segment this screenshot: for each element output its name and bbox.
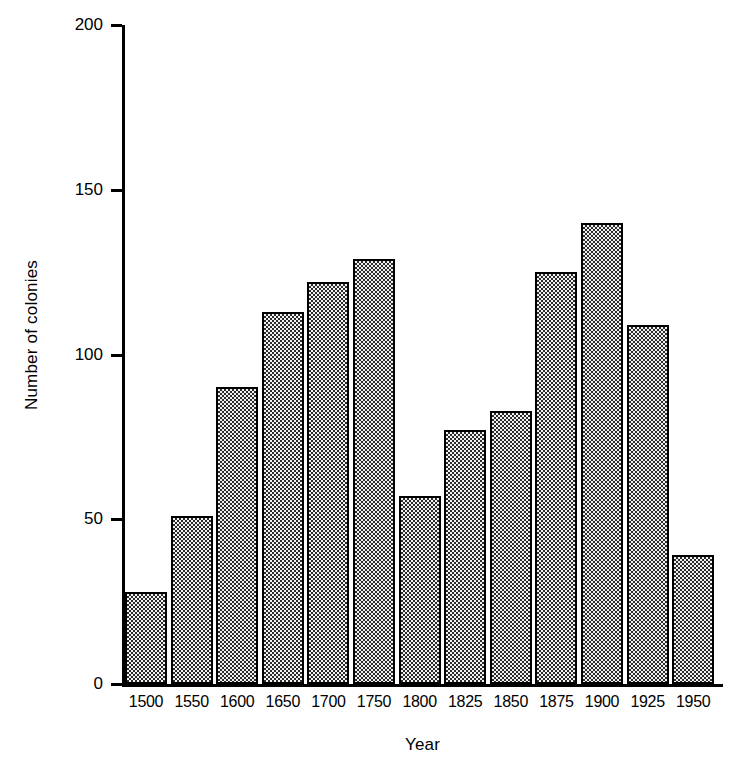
y-axis-title: Number of colonies <box>22 235 42 435</box>
bar <box>535 272 577 684</box>
y-axis-tick-label: 150 <box>35 181 103 198</box>
x-axis-title: Year <box>122 735 723 755</box>
bar <box>353 259 395 684</box>
y-axis-tick <box>111 518 122 521</box>
bar <box>490 411 532 684</box>
bar-chart-figure: Number of colonies 050100150200 15001550… <box>0 0 746 776</box>
x-axis-tick-label: 1950 <box>663 694 723 710</box>
bar <box>216 387 258 684</box>
y-axis-tick-label: 50 <box>35 510 103 527</box>
y-axis-tick <box>111 24 122 27</box>
y-axis-tick-label: 200 <box>35 16 103 33</box>
y-axis-tick-label: 100 <box>35 346 103 363</box>
y-axis-tick <box>111 354 122 357</box>
bar <box>262 312 304 684</box>
y-axis-tick <box>111 189 122 192</box>
bar <box>399 496 441 684</box>
y-axis-tick-label: 0 <box>35 675 103 692</box>
bar <box>627 325 669 684</box>
x-axis-line <box>122 684 723 687</box>
bar <box>171 516 213 684</box>
bar <box>125 592 167 684</box>
bar <box>581 223 623 684</box>
y-axis-line <box>122 25 125 686</box>
bar <box>307 282 349 684</box>
bar <box>672 555 714 684</box>
y-axis-tick <box>111 683 122 686</box>
bar <box>444 430 486 684</box>
